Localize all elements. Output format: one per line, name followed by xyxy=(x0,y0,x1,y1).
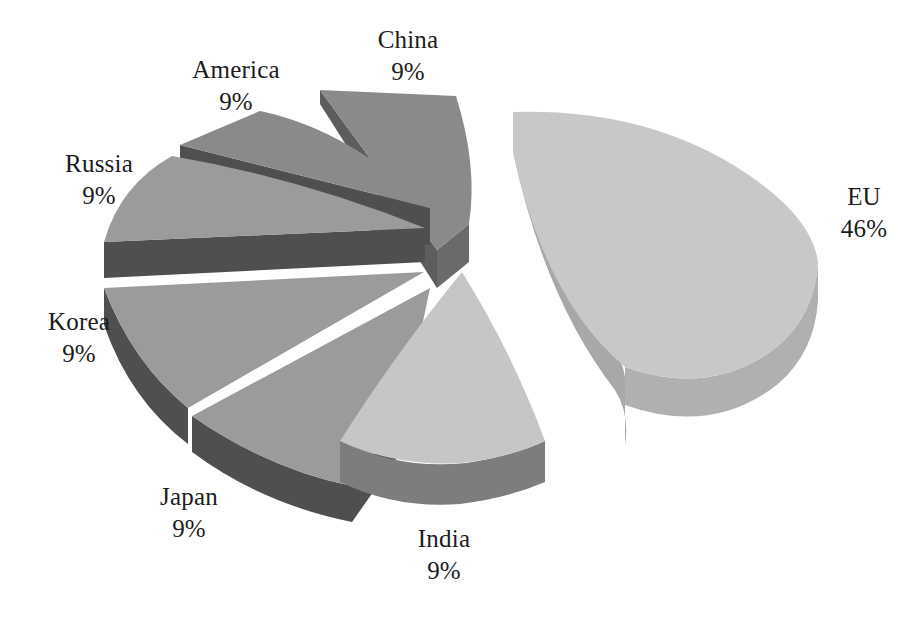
pie-label-india: India 9% xyxy=(396,523,492,586)
pie-label-china-value: 9% xyxy=(352,56,464,88)
pie-label-russia-value: 9% xyxy=(44,180,154,212)
pie-label-japan-name: Japan xyxy=(138,481,240,513)
pie-chart-figure: China 9% America 9% Russia 9% Korea 9% J… xyxy=(0,0,902,617)
pie-label-eu-name: EU xyxy=(826,181,902,213)
pie-label-china: China 9% xyxy=(352,24,464,87)
pie-label-america: America 9% xyxy=(168,54,304,117)
pie-label-japan: Japan 9% xyxy=(138,481,240,544)
pie-label-america-value: 9% xyxy=(168,86,304,118)
pie-label-japan-value: 9% xyxy=(138,513,240,545)
pie-label-america-name: America xyxy=(168,54,304,86)
pie-label-india-value: 9% xyxy=(396,555,492,587)
pie-label-korea-value: 9% xyxy=(28,338,130,370)
pie-label-india-name: India xyxy=(396,523,492,555)
pie-label-russia-name: Russia xyxy=(44,148,154,180)
pie-label-eu-value: 46% xyxy=(826,213,902,245)
pie-label-korea: Korea 9% xyxy=(28,306,130,369)
pie-label-russia: Russia 9% xyxy=(44,148,154,211)
pie-slice-eu[interactable] xyxy=(513,112,818,445)
pie-label-china-name: China xyxy=(352,24,464,56)
pie-slice-eu-top xyxy=(513,112,818,379)
pie-label-korea-name: Korea xyxy=(28,306,130,338)
pie-label-eu: EU 46% xyxy=(826,181,902,244)
